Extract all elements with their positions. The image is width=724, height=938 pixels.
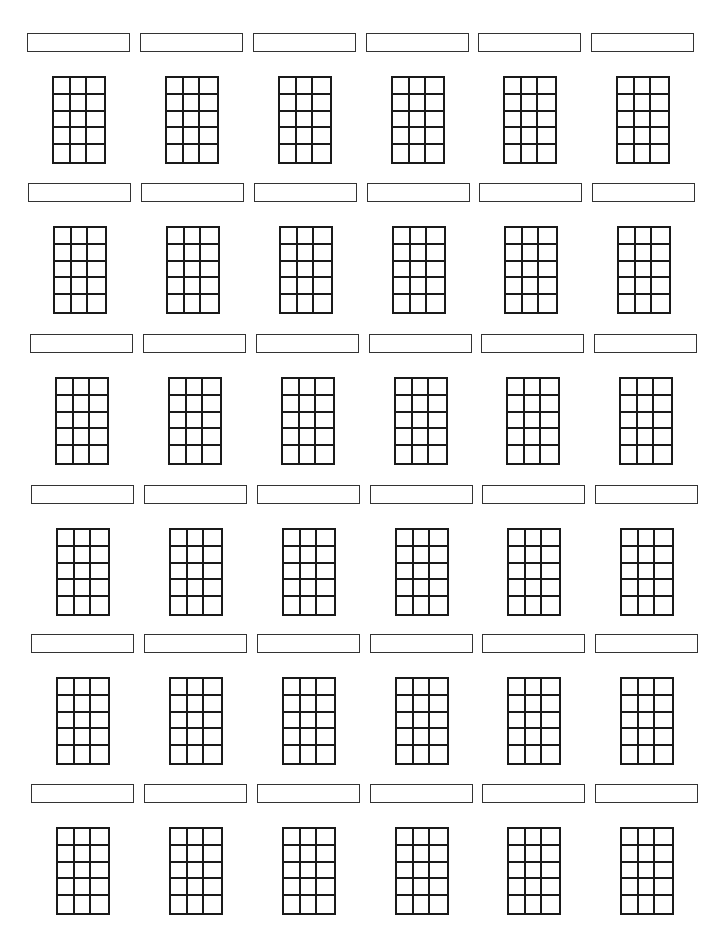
- fret-cell: [638, 413, 655, 430]
- fret-cell: [639, 713, 656, 730]
- fret-cell: [200, 145, 217, 162]
- chord-name-box[interactable]: [370, 634, 473, 653]
- chord-name-box[interactable]: [369, 334, 472, 353]
- chord-name-box[interactable]: [367, 183, 470, 202]
- chord-name-box[interactable]: [144, 784, 247, 803]
- fret-cell: [655, 746, 672, 763]
- fret-cell: [526, 879, 543, 896]
- chord-name-box[interactable]: [366, 33, 469, 52]
- chord-name-box[interactable]: [370, 784, 473, 803]
- chord-name-box[interactable]: [481, 334, 584, 353]
- chord-name-box[interactable]: [256, 334, 359, 353]
- chord-name-box[interactable]: [482, 634, 585, 653]
- chord-name-box[interactable]: [30, 334, 133, 353]
- fret-cell: [427, 262, 444, 279]
- chord-chart: [594, 334, 699, 474]
- chord-name-box[interactable]: [31, 485, 134, 504]
- fret-cell: [301, 530, 318, 547]
- fret-cell: [541, 429, 558, 446]
- chord-name-box[interactable]: [595, 784, 698, 803]
- fret-cell: [188, 547, 205, 564]
- chord-name-box[interactable]: [591, 33, 694, 52]
- fret-cell: [397, 530, 414, 547]
- chord-name-box[interactable]: [594, 334, 697, 353]
- chord-chart: [31, 485, 136, 625]
- chord-name-box[interactable]: [257, 784, 360, 803]
- fret-cell: [655, 729, 672, 746]
- chord-name-box[interactable]: [28, 183, 131, 202]
- fret-cell: [635, 145, 652, 162]
- fret-cell: [91, 679, 108, 696]
- fret-cell: [171, 896, 188, 913]
- fret-cell: [635, 112, 652, 129]
- fret-cell: [393, 78, 410, 95]
- fret-cell: [619, 278, 636, 295]
- chord-name-box[interactable]: [595, 634, 698, 653]
- fret-cell: [426, 78, 443, 95]
- fret-cell: [619, 295, 636, 312]
- chord-name-box[interactable]: [592, 183, 695, 202]
- chord-chart: [141, 183, 246, 323]
- fret-cell: [397, 547, 414, 564]
- fret-cell: [636, 228, 653, 245]
- chord-name-box[interactable]: [141, 183, 244, 202]
- chord-name-box[interactable]: [482, 784, 585, 803]
- fret-cell: [414, 580, 431, 597]
- fret-cell: [411, 262, 428, 279]
- chord-name-box[interactable]: [257, 485, 360, 504]
- chord-name-box[interactable]: [143, 334, 246, 353]
- chord-chart: [595, 485, 700, 625]
- fret-cell: [88, 245, 105, 262]
- chord-name-box[interactable]: [31, 784, 134, 803]
- fret-cell: [397, 729, 414, 746]
- fret-cell: [58, 829, 75, 846]
- fret-cell: [523, 228, 540, 245]
- fret-cell: [170, 446, 187, 463]
- chord-name-box[interactable]: [27, 33, 130, 52]
- fret-cell: [91, 879, 108, 896]
- fretboard-grid: [282, 827, 336, 915]
- fret-cell: [187, 379, 204, 396]
- chord-name-box[interactable]: [257, 634, 360, 653]
- fret-cell: [414, 530, 431, 547]
- chord-name-box[interactable]: [253, 33, 356, 52]
- chord-name-box[interactable]: [478, 33, 581, 52]
- fret-cell: [297, 145, 314, 162]
- fret-cell: [508, 446, 525, 463]
- chord-name-box[interactable]: [482, 485, 585, 504]
- fret-cell: [58, 846, 75, 863]
- fret-cell: [91, 863, 108, 880]
- fret-cell: [509, 729, 526, 746]
- fret-cell: [636, 262, 653, 279]
- fret-cell: [651, 112, 668, 129]
- fret-cell: [284, 530, 301, 547]
- fret-cell: [54, 78, 71, 95]
- fret-cell: [75, 896, 92, 913]
- fret-cell: [429, 446, 446, 463]
- fret-cell: [426, 95, 443, 112]
- fretboard-grid: [166, 226, 220, 314]
- chord-name-box[interactable]: [140, 33, 243, 52]
- fret-cell: [542, 729, 559, 746]
- chord-name-box[interactable]: [370, 485, 473, 504]
- fret-cell: [655, 696, 672, 713]
- chord-chart: [143, 334, 248, 474]
- fret-cell: [429, 396, 446, 413]
- fret-cell: [542, 580, 559, 597]
- chord-name-box[interactable]: [31, 634, 134, 653]
- chord-name-box[interactable]: [144, 485, 247, 504]
- fret-cell: [397, 580, 414, 597]
- fret-cell: [317, 896, 334, 913]
- fretboard-grid: [56, 677, 110, 765]
- chord-chart: [595, 634, 700, 774]
- fret-cell: [188, 746, 205, 763]
- fret-cell: [88, 295, 105, 312]
- chord-name-box[interactable]: [254, 183, 357, 202]
- fret-cell: [74, 446, 91, 463]
- chord-name-box[interactable]: [144, 634, 247, 653]
- chord-name-box[interactable]: [595, 485, 698, 504]
- fret-cell: [75, 580, 92, 597]
- chord-name-box[interactable]: [479, 183, 582, 202]
- fret-cell: [430, 879, 447, 896]
- fret-cell: [317, 879, 334, 896]
